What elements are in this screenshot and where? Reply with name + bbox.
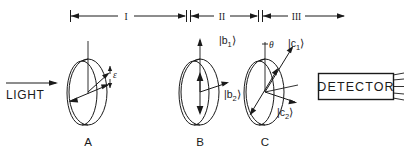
light-label: LIGHT (6, 88, 44, 102)
ket-b2-base: |b (224, 88, 233, 100)
element-label-B: B (196, 136, 204, 148)
ket-c2-arrow-head (288, 99, 297, 104)
scale-region-I: I (71, 10, 187, 22)
ket-c1-base: |c (288, 37, 296, 49)
ket-b2-arrow-head (221, 81, 229, 86)
ket-label-c2: |c2⟩ (277, 106, 293, 121)
ket-c1-close: ⟩ (300, 37, 304, 49)
figure-canvas: I II III (0, 0, 404, 157)
ket-b2-close: ⟩ (237, 88, 241, 100)
detector-leads (393, 73, 404, 100)
light-source: LIGHT (6, 80, 58, 102)
detector: DETECTOR (317, 73, 404, 100)
ket-c2-close: ⟩ (289, 106, 293, 118)
crystal-B: |b1⟩ |b2⟩ B (179, 34, 241, 148)
scale-region-II: II (191, 10, 259, 22)
element-label-A: A (84, 136, 92, 148)
element-label-C: C (261, 136, 269, 148)
angle-label-theta: θ (269, 40, 274, 50)
light-arrow-head (49, 80, 58, 86)
crystal-C-reference-ray (265, 85, 298, 92)
crystal-A: ε A (67, 41, 117, 148)
ket-b1-base: |b (219, 34, 228, 46)
ket-label-b2: |b2⟩ (224, 88, 241, 103)
scale-label-I: I (124, 12, 127, 22)
crystal-C: θ |c1⟩ |c2⟩ C (244, 37, 304, 148)
scale-label-III: III (292, 12, 302, 22)
scale-region-III: III (263, 10, 346, 22)
ket-b1-arrow-head (197, 38, 202, 46)
angle-label-epsilon: ε (113, 70, 117, 80)
ket-c2-base: |c (277, 106, 285, 118)
scale-label-II: II (219, 12, 225, 22)
crystal-B-back-face (179, 61, 209, 125)
scale-bar: I II III (71, 10, 346, 22)
detector-label: DETECTOR (317, 80, 394, 94)
ket-label-b1: |b1⟩ (219, 34, 236, 49)
ket-b1-close: ⟩ (232, 34, 236, 46)
crystal-A-back-face (67, 61, 97, 125)
physics-figure: I II III (0, 0, 404, 157)
